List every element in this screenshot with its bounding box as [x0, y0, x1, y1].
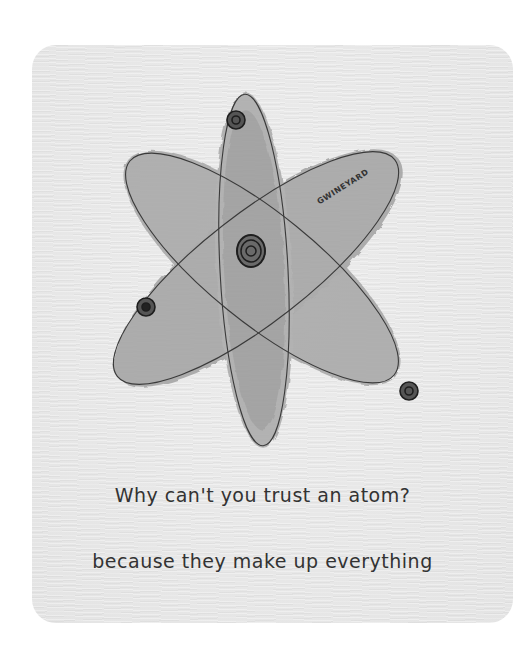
caption-punchline: because they make up everything [0, 550, 525, 572]
electron-icon [137, 298, 155, 316]
nucleus-icon [237, 235, 265, 267]
electron-icon [227, 111, 245, 129]
electron-icon [400, 382, 418, 400]
caption-question: Why can't you trust an atom? [0, 484, 525, 506]
